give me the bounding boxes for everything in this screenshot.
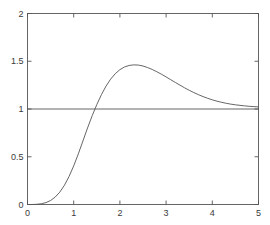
x-tick-label: 3 — [164, 209, 169, 218]
x-tick-label: 0 — [25, 209, 30, 218]
x-tick-label: 4 — [210, 209, 215, 218]
figure-canvas: 00.511.52 012345 — [0, 0, 270, 225]
x-tick-label: 1 — [71, 209, 76, 218]
y-tick-label: 1.5 — [11, 57, 24, 66]
x-tick-label: 5 — [256, 209, 261, 218]
y-tick-label: 0.5 — [11, 152, 24, 161]
y-tick-label: 0 — [18, 200, 23, 209]
x-tick-label: 2 — [117, 209, 122, 218]
figure-background — [0, 0, 270, 225]
y-tick-label: 2 — [18, 9, 23, 18]
plot-area — [0, 0, 270, 225]
y-tick-label: 1 — [18, 105, 23, 114]
